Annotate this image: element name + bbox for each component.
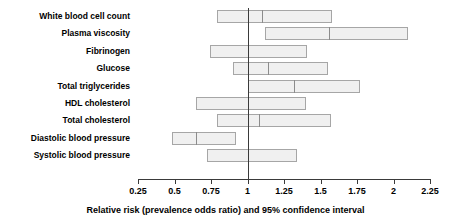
category-label: HDL cholesterol (0, 99, 130, 108)
plot-area (138, 10, 430, 178)
x-axis-tick-label: 0.5 (168, 186, 181, 196)
point-estimate-marker (259, 114, 260, 127)
x-axis-tick (357, 179, 358, 184)
forest-plot-chart: White blood cell countPlasma viscosityFi… (0, 0, 451, 224)
x-axis-tick (430, 179, 431, 184)
confidence-interval-bar (172, 132, 236, 145)
confidence-interval-bar (210, 45, 308, 58)
x-axis-title: Relative risk (prevalence odds ratio) an… (0, 205, 451, 215)
x-axis-tick (394, 179, 395, 184)
x-axis-tick-label: 1.75 (348, 186, 366, 196)
category-label: Total triglycerides (0, 82, 130, 91)
ci-bar-row (138, 62, 430, 75)
ci-bar-row (138, 45, 430, 58)
x-axis-tick-label: 0.25 (129, 186, 147, 196)
x-axis-tick (211, 179, 212, 184)
point-estimate-marker (196, 132, 197, 145)
ci-bar-row (138, 10, 430, 23)
category-label: Total cholesterol (0, 116, 130, 125)
confidence-interval-bar (217, 10, 332, 23)
confidence-interval-bar (248, 80, 360, 93)
x-axis-tick (248, 179, 249, 184)
category-labels: White blood cell countPlasma viscosityFi… (0, 0, 134, 176)
confidence-interval-bar (217, 114, 331, 127)
category-label: White blood cell count (0, 12, 130, 21)
point-estimate-marker (294, 80, 295, 93)
x-axis-tick-label: 2 (391, 186, 396, 196)
point-estimate-marker (268, 62, 269, 75)
x-axis-tick-label: 1.25 (275, 186, 293, 196)
x-axis-tick (284, 179, 285, 184)
confidence-interval-bar (265, 27, 408, 40)
x-axis-tick-label: 1.5 (314, 186, 327, 196)
confidence-interval-bar (196, 97, 306, 110)
reference-line-at-1 (248, 8, 249, 180)
category-label: Glucose (0, 64, 130, 73)
category-label: Diastolic blood pressure (0, 134, 130, 143)
category-label: Fibrinogen (0, 47, 130, 56)
confidence-interval-bar (207, 149, 298, 162)
category-label: Plasma viscosity (0, 29, 130, 38)
category-label: Systolic blood pressure (0, 151, 130, 160)
x-axis-tick-label: 0.75 (202, 186, 220, 196)
x-axis-tick (138, 179, 139, 184)
ci-bar-row (138, 132, 430, 145)
x-axis-tick (175, 179, 176, 184)
ci-bar-row (138, 114, 430, 127)
x-axis-tick-label: 2.25 (421, 186, 439, 196)
ci-bar-row (138, 149, 430, 162)
x-axis-tick (321, 179, 322, 184)
ci-bar-row (138, 97, 430, 110)
point-estimate-marker (329, 27, 330, 40)
ci-bar-row (138, 80, 430, 93)
ci-bar-row (138, 27, 430, 40)
x-axis-tick-label: 1 (245, 186, 250, 196)
point-estimate-marker (262, 10, 263, 23)
